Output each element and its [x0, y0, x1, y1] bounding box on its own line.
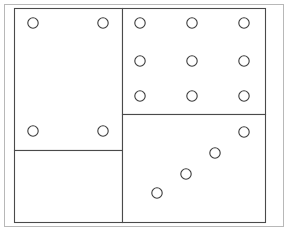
- node-circle[interactable]: lr-1: [239, 127, 249, 137]
- node-circle[interactable]: lr-2: [210, 148, 220, 158]
- node-circle[interactable]: ur-5: [187, 56, 197, 66]
- node-circle[interactable]: ul-2: [98, 18, 108, 28]
- node-circle[interactable]: lr-4: [152, 188, 162, 198]
- panel-lower-left-panel[interactable]: Lower Left Panel: [15, 151, 123, 223]
- node-circle[interactable]: ul-4: [98, 126, 108, 136]
- node-circle[interactable]: ul-1: [28, 18, 38, 28]
- node-circle[interactable]: ur-2: [187, 18, 197, 28]
- layout-diagram: Upper Left PanelLower Left PanelUpper Ri…: [0, 0, 296, 237]
- node-circle[interactable]: ur-3: [239, 18, 249, 28]
- diagram-canvas: Upper Left PanelLower Left PanelUpper Ri…: [0, 0, 296, 237]
- node-circle[interactable]: ur-8: [187, 91, 197, 101]
- node-circle[interactable]: ur-7: [135, 91, 145, 101]
- node-circle[interactable]: ur-1: [135, 18, 145, 28]
- node-circle[interactable]: ul-3: [28, 126, 38, 136]
- node-circle[interactable]: ur-6: [239, 56, 249, 66]
- node-circle[interactable]: ur-9: [239, 91, 249, 101]
- node-circle[interactable]: lr-3: [181, 169, 191, 179]
- node-circle[interactable]: ur-4: [135, 56, 145, 66]
